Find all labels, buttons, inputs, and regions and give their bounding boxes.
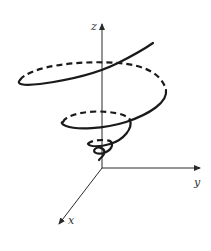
helix-large-loop-back	[20, 62, 166, 90]
helix-large-loop-front	[62, 90, 166, 128]
z-axis-label: z	[90, 20, 97, 33]
helix-middle-loop-front	[88, 120, 131, 146]
x-axis	[59, 168, 102, 224]
y-axis-label: y	[193, 176, 201, 189]
helix-top-segment	[19, 43, 153, 85]
x-axis-label: x	[68, 214, 75, 227]
helix-diagram: z y x	[0, 0, 211, 251]
helix-small-loop-back	[88, 140, 110, 144]
helix-middle-loop-back	[63, 111, 130, 122]
